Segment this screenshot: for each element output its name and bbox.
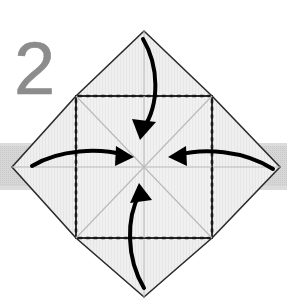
origami-diagram-canvas: 2 bbox=[0, 0, 287, 301]
square-crease-lines bbox=[76, 96, 212, 238]
step-number-label: 2 bbox=[14, 27, 55, 110]
origami-step-figure: 2 bbox=[0, 0, 287, 301]
